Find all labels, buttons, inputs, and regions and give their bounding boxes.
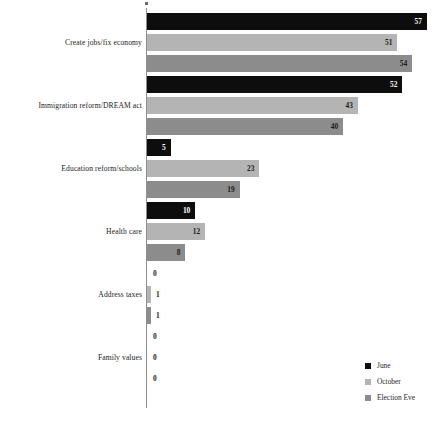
bar-row: 54 bbox=[146, 55, 446, 72]
bar-row: 0 bbox=[146, 328, 446, 345]
legend-item[interactable]: June bbox=[365, 358, 445, 374]
bar-row: 23 bbox=[146, 160, 446, 177]
bar-value-label: 19 bbox=[146, 181, 235, 198]
bar-row: 40 bbox=[146, 118, 446, 135]
bar-value-label: 52 bbox=[146, 76, 397, 93]
bar-value-label: 51 bbox=[146, 34, 392, 51]
bar-value-label: 40 bbox=[146, 118, 338, 135]
bar-chart: Create jobs/fix economy575154Immigration… bbox=[0, 0, 446, 432]
bar-row: 0 bbox=[146, 265, 446, 282]
category-label: Address taxes bbox=[2, 290, 142, 300]
bar-value-label: 1 bbox=[156, 307, 160, 324]
bar-group: Immigration reform/DREAM act524340 bbox=[0, 76, 446, 139]
bar-row: 43 bbox=[146, 97, 446, 114]
value-axis-line bbox=[146, 8, 147, 408]
bar-row: 57 bbox=[146, 13, 446, 30]
legend-swatch-june bbox=[365, 363, 371, 369]
bar-row: 5 bbox=[146, 139, 446, 156]
bar-value-label: 1 bbox=[156, 286, 160, 303]
category-label: Immigration reform/DREAM act bbox=[2, 101, 142, 111]
bar-row: 19 bbox=[146, 181, 446, 198]
bar-row: 12 bbox=[146, 223, 446, 240]
bar-value-label: 5 bbox=[146, 139, 166, 156]
bar-group: Create jobs/fix economy575154 bbox=[0, 13, 446, 76]
legend-swatch-october bbox=[365, 379, 371, 385]
bar-value-label: 23 bbox=[146, 160, 254, 177]
bar-value-label: 0 bbox=[153, 349, 157, 366]
legend-label: October bbox=[377, 374, 401, 390]
bar-row: 52 bbox=[146, 76, 446, 93]
bar-value-label: 0 bbox=[153, 328, 157, 345]
category-label: Education reform/schools bbox=[2, 164, 142, 174]
legend-item[interactable]: October bbox=[365, 374, 445, 390]
bar-value-label: 57 bbox=[146, 13, 422, 30]
bar-row: 8 bbox=[146, 244, 446, 261]
bar-value-label: 0 bbox=[153, 265, 157, 282]
legend-item[interactable]: Election Eve bbox=[365, 390, 445, 406]
bar-group: Health care10128 bbox=[0, 202, 446, 265]
bar-group: Address taxes011 bbox=[0, 265, 446, 328]
bar-row: 1 bbox=[146, 286, 446, 303]
legend-label: Election Eve bbox=[377, 390, 415, 406]
bar-value-label: 12 bbox=[146, 223, 200, 240]
legend-label: June bbox=[377, 358, 391, 374]
bar-value-label: 43 bbox=[146, 97, 353, 114]
category-label: Create jobs/fix economy bbox=[2, 38, 142, 48]
bar-row: 51 bbox=[146, 34, 446, 51]
legend-swatch-election-eve bbox=[365, 395, 371, 401]
bar-value-label: 8 bbox=[146, 244, 180, 261]
bar-value-label: 10 bbox=[146, 202, 190, 219]
bar-row: 1 bbox=[146, 307, 446, 324]
bar-group: Education reform/schools52319 bbox=[0, 139, 446, 202]
bar-row: 10 bbox=[146, 202, 446, 219]
chart-legend: JuneOctoberElection Eve bbox=[365, 358, 445, 406]
bar-value-label: 54 bbox=[146, 55, 407, 72]
axis-tick-mark bbox=[145, 2, 148, 5]
category-label: Health care bbox=[2, 227, 142, 237]
bar-value-label: 0 bbox=[153, 370, 157, 387]
category-label: Family values bbox=[2, 353, 142, 363]
